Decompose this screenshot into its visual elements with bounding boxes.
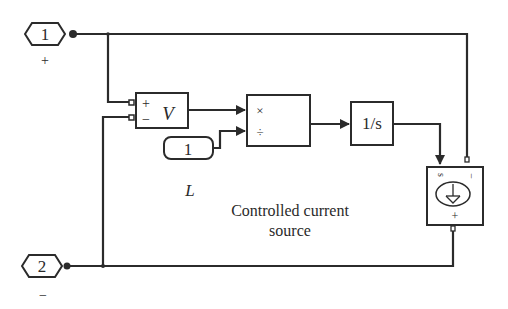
wire-negative-rail[interactable] [68,228,453,266]
source-plus-port [451,226,455,231]
sensor-plus-label: + [142,96,150,111]
wire-to-sensor-plus[interactable] [108,34,131,102]
connection-terminal-icon [64,263,71,270]
voltage-sensor-block[interactable]: + − V [129,93,188,128]
port-2[interactable]: 2 − [22,255,71,303]
connection-terminal-icon [69,30,77,38]
source-minus-label: − [466,173,477,179]
caption-line-1: Controlled current [231,202,349,219]
port-1-sign: + [41,53,49,68]
sensor-minus-port [129,115,134,120]
wire-integrator-to-source[interactable] [393,124,440,164]
sensor-minus-label: − [142,112,150,127]
junction-dot [106,32,110,36]
product-block[interactable]: × ÷ [247,95,310,146]
caption: Controlled current source [231,202,349,239]
constant-name-label: L [184,181,194,200]
caption-line-2: source [269,222,311,239]
constant-value: 1 [184,140,193,159]
port-1[interactable]: 1 + [25,23,77,68]
sensor-plus-port [129,100,134,105]
port-1-number: 1 [41,25,50,44]
wires [68,34,467,266]
product-divide-sign: ÷ [256,124,263,139]
port-2-number: 2 [38,257,47,276]
integrator-block[interactable]: 1/s [351,102,393,145]
constant-block-L[interactable]: 1 L [164,137,213,200]
diagram-canvas: 1 + 2 − + − V × ÷ 1 L 1/s s [0,0,508,309]
source-s-label: s [436,173,447,177]
junction-dot [101,264,105,268]
port-2-sign: − [39,288,47,303]
controlled-current-source-block[interactable]: s − + [427,157,483,231]
wire-constant-to-product[interactable] [213,131,245,148]
integrator-label: 1/s [362,114,382,133]
source-plus-label: + [452,209,459,223]
source-minus-port [465,157,469,162]
product-multiply-sign: × [256,103,263,118]
wire-to-sensor-minus[interactable] [103,117,131,266]
